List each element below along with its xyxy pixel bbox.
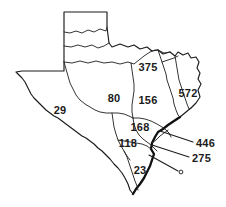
region-label-572: 572	[179, 88, 198, 99]
callout-label-275: 275	[192, 153, 211, 164]
callout-label-446: 446	[196, 138, 215, 149]
region-label-168: 168	[131, 122, 150, 133]
texas-region-map: 375 572 80 156 29 168 118 23 446 275	[0, 0, 226, 207]
leader-line-275	[152, 145, 189, 157]
region-label-118: 118	[119, 138, 137, 149]
map-vector-layer	[0, 0, 226, 207]
leader-line-446	[160, 131, 193, 142]
region-label-156: 156	[139, 95, 158, 106]
region-label-375: 375	[139, 62, 158, 73]
region-label-80: 80	[108, 93, 121, 104]
coastal-point-marker	[179, 170, 183, 174]
leader-line-point-marker	[149, 155, 178, 171]
region-label-23: 23	[134, 165, 147, 176]
region-label-29: 29	[54, 105, 67, 116]
